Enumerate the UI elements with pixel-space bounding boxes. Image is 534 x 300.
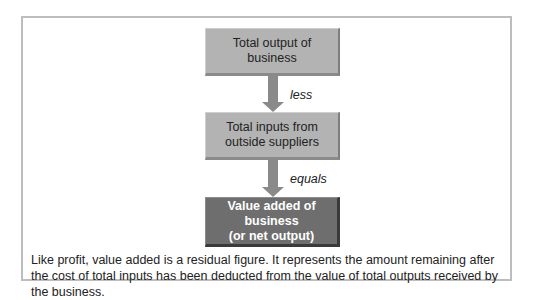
node-total-inputs-line2: outside suppliers xyxy=(225,135,319,149)
arrow-shaft xyxy=(268,76,278,102)
edge-label-less: less xyxy=(290,88,312,102)
node-total-output-line1: Total output of xyxy=(233,36,312,50)
arrow-down-icon xyxy=(262,76,284,112)
edge-label-equals: equals xyxy=(290,172,327,186)
node-value-added-line1: Value added of business xyxy=(227,199,315,228)
arrow-down-icon xyxy=(262,160,284,197)
node-total-inputs: Total inputs from outside suppliers xyxy=(205,112,340,160)
arrow-head xyxy=(262,102,284,112)
node-value-added: Value added of business (or net output) xyxy=(205,197,340,247)
node-value-added-line2: (or net output) xyxy=(229,229,314,243)
arrow-shaft xyxy=(268,160,278,187)
node-total-output: Total output of business xyxy=(205,28,340,76)
arrow-head xyxy=(262,187,284,197)
node-total-inputs-line1: Total inputs from xyxy=(226,120,318,134)
figure-caption: Like profit, value added is a residual f… xyxy=(31,252,509,300)
node-total-output-line2: business xyxy=(247,51,296,65)
